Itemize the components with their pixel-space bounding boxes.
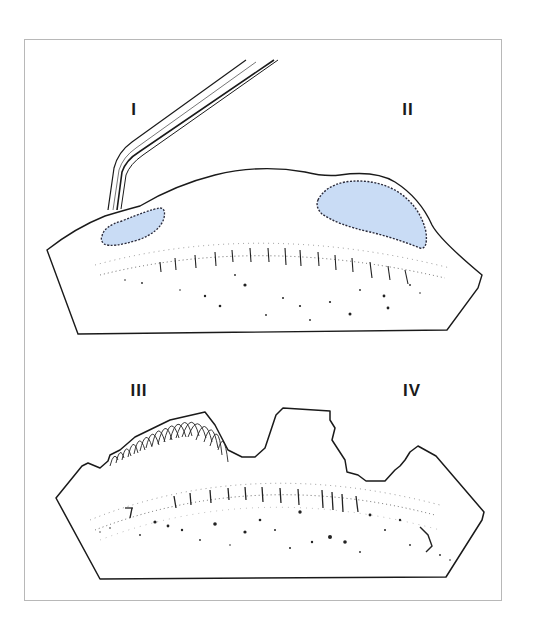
upper-tissue-section	[47, 169, 482, 334]
illustration	[0, 0, 552, 637]
panel-label-iii: III	[130, 381, 147, 401]
panel-label-ii: II	[402, 100, 413, 120]
panel-label-iv: IV	[403, 381, 421, 401]
panel-label-i: I	[131, 100, 137, 120]
lower-tissue-section	[56, 408, 484, 579]
